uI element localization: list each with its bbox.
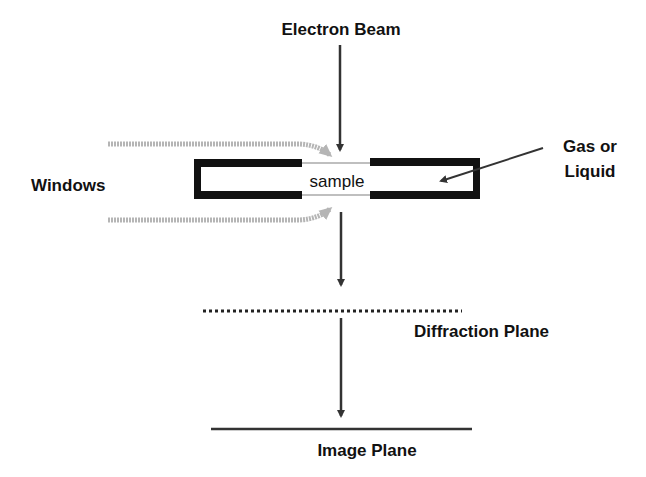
- diagram-canvas: [0, 0, 646, 477]
- windows-label: Windows: [31, 176, 105, 196]
- gas-label-line2: Liquid: [565, 162, 616, 182]
- chamber-right: [370, 158, 480, 199]
- sample-label: sample: [310, 172, 365, 192]
- image-plane-label: Image Plane: [317, 441, 416, 461]
- gas-label-line1: Gas or: [563, 137, 617, 157]
- window-arrow-bottom: [108, 209, 330, 220]
- window-arrow-top: [108, 144, 330, 155]
- chamber-left: [194, 159, 302, 199]
- diffraction-plane-label: Diffraction Plane: [414, 322, 549, 342]
- electron-beam-label: Electron Beam: [281, 20, 400, 40]
